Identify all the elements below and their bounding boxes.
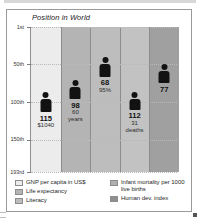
data-value-label: 77 — [160, 85, 168, 94]
pictogram-head — [132, 92, 138, 98]
y-axis-tick-label: 50th — [6, 61, 24, 67]
legend-label: Infant mortality per 1000 live births — [121, 179, 188, 194]
pictogram-body — [40, 99, 51, 112]
data-sublabel-line: $1040 — [37, 122, 54, 129]
pictogram-head — [102, 57, 108, 63]
legend-swatch-icon — [110, 196, 118, 202]
gridline — [31, 27, 177, 28]
y-axis-tick-label: 1st — [6, 24, 24, 30]
person-pictogram-icon — [129, 92, 140, 110]
pictogram-head — [161, 64, 167, 70]
figure-root: Position in World 115$10409860years6895%… — [0, 0, 200, 223]
pictogram-body — [70, 87, 81, 99]
page-edge-bottom-left — [0, 212, 6, 218]
gridline — [31, 140, 177, 141]
person-pictogram-icon — [159, 64, 170, 83]
y-axis-tick — [27, 64, 31, 65]
y-axis-tick — [27, 140, 31, 141]
y-axis-tick-label: 193rd — [6, 169, 24, 175]
y-axis-tick — [27, 172, 31, 173]
y-axis-tick — [27, 27, 31, 28]
legend-swatch-icon — [15, 180, 23, 186]
data-sublabel-line: 95% — [99, 87, 111, 94]
plot-area: 115$10409860years6895%11231deaths77 — [30, 27, 178, 172]
person-pictogram-icon — [100, 57, 111, 77]
data-sublabel: 95% — [99, 87, 111, 94]
data-sublabel-line: 60 — [68, 109, 83, 116]
legend-swatch-icon — [110, 180, 118, 186]
column-band — [61, 27, 91, 172]
person-pictogram-icon — [40, 92, 51, 112]
data-sublabel: 60years — [68, 109, 83, 123]
data-sublabel-line: 31 — [126, 120, 144, 127]
gridline — [31, 102, 177, 103]
data-sublabel: $1040 — [37, 122, 54, 129]
chart-container: Position in World 115$10409860years6895%… — [6, 9, 192, 212]
pictogram-body — [129, 99, 140, 110]
column-band — [90, 27, 120, 172]
pictogram-body — [159, 71, 170, 83]
chart-legend: GNP per capita in US$Life expectancyLite… — [15, 179, 185, 209]
page-edge-top — [4, 0, 196, 3]
legend-label: GNP per capita in US$ — [26, 179, 86, 186]
legend-label: Human dev. index — [121, 195, 168, 202]
legend-item[interactable]: Life expectancy — [15, 188, 107, 195]
data-sublabel-line: deaths — [126, 127, 144, 134]
legend-swatch-icon — [15, 189, 23, 195]
legend-item[interactable]: Human dev. index — [110, 195, 188, 202]
y-axis-tick-label: 150th — [6, 136, 24, 142]
legend-column-right: Infant mortality per 1000 live birthsHum… — [110, 179, 188, 204]
column-band — [149, 27, 179, 172]
chart-title: Position in World — [32, 13, 90, 22]
data-sublabel: 31deaths — [126, 120, 144, 134]
legend-swatch-icon — [15, 198, 23, 204]
y-axis-tick-label: 100th — [6, 99, 24, 105]
legend-item[interactable]: Infant mortality per 1000 live births — [110, 179, 188, 194]
person-pictogram-icon — [70, 80, 81, 99]
pictogram-head — [72, 80, 78, 86]
page-edge-bottom-right — [193, 213, 197, 217]
pictogram-body — [100, 64, 111, 77]
legend-column-left: GNP per capita in US$Life expectancyLite… — [15, 179, 107, 206]
gridline — [31, 172, 177, 173]
legend-item[interactable]: GNP per capita in US$ — [15, 179, 107, 186]
legend-item[interactable]: Literacy — [15, 197, 107, 204]
data-sublabel-line: years — [68, 116, 83, 123]
y-axis-tick — [27, 102, 31, 103]
pictogram-head — [43, 92, 49, 98]
legend-label: Literacy — [26, 197, 47, 204]
legend-label: Life expectancy — [26, 188, 67, 195]
